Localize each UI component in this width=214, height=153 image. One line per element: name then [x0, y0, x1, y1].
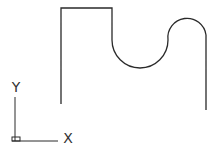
ucs-icon: Y X — [11, 79, 73, 146]
profile-polyline[interactable] — [61, 8, 206, 110]
x-axis-label: X — [63, 130, 73, 146]
ucs-origin-box-icon — [12, 137, 20, 141]
drawing-canvas[interactable]: Y X — [0, 0, 214, 153]
y-axis-label: Y — [11, 79, 21, 95]
